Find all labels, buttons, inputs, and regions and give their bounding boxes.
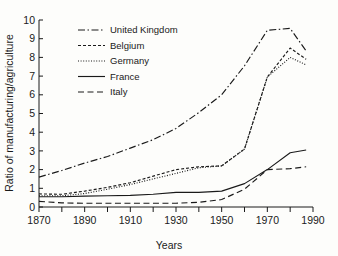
y-axis-ticks <box>39 20 43 207</box>
y-tick-label: 0 <box>29 201 35 213</box>
y-tick-label: 5 <box>29 107 35 119</box>
y-tick-label: 3 <box>29 145 35 157</box>
y-tick-label: 2 <box>29 163 35 175</box>
y-tick-label: 4 <box>29 126 35 138</box>
series-line-united-kingdom <box>39 28 306 177</box>
y-tick-label: 1 <box>29 182 35 194</box>
x-axis-ticks <box>39 207 313 212</box>
series-line-germany <box>39 57 306 195</box>
series-line-france <box>39 150 306 197</box>
chart-canvas: 1870189019101930195019701990 01234567891… <box>0 0 338 256</box>
x-tick-label: 1970 <box>256 214 280 226</box>
data-series-group <box>39 28 306 203</box>
legend-label-france: France <box>110 71 140 82</box>
x-tick-label: 1910 <box>119 214 143 226</box>
x-tick-label: 1870 <box>27 214 51 226</box>
legend: United KingdomBelgiumGermanyFranceItaly <box>78 24 178 97</box>
series-line-belgium <box>39 48 306 194</box>
y-tick-label: 10 <box>23 14 35 26</box>
x-tick-label: 1930 <box>164 214 188 226</box>
legend-label-belgium: Belgium <box>110 40 144 51</box>
legend-label-germany: Germany <box>110 55 149 66</box>
y-tick-label: 7 <box>29 70 35 82</box>
y-axis-tick-labels: 012345678910 <box>23 14 35 213</box>
x-tick-label: 1990 <box>301 214 325 226</box>
legend-label-united-kingdom: United Kingdom <box>110 24 178 35</box>
axis-frame <box>39 20 313 207</box>
y-axis-title: Ratio of manufacturing/agriculture <box>3 34 15 192</box>
y-tick-label: 9 <box>29 32 35 44</box>
x-axis-tick-labels: 1870189019101930195019701990 <box>27 214 325 226</box>
series-line-italy <box>39 167 306 203</box>
y-tick-label: 6 <box>29 88 35 100</box>
x-axis-title: Years <box>156 239 182 251</box>
x-tick-label: 1950 <box>210 214 234 226</box>
y-tick-label: 8 <box>29 51 35 63</box>
x-tick-label: 1890 <box>73 214 97 226</box>
legend-label-italy: Italy <box>110 86 128 97</box>
chart-figure: 1870189019101930195019701990 01234567891… <box>0 0 338 256</box>
